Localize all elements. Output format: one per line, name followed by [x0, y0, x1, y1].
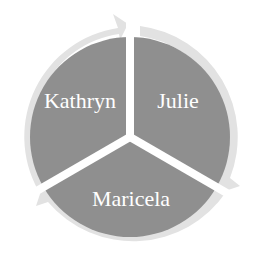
label-maricela: Maricela — [92, 186, 170, 211]
label-kathryn: Kathryn — [44, 88, 116, 113]
label-julie: Julie — [157, 88, 199, 113]
cycle-diagram: Kathryn Julie Maricela — [0, 0, 256, 265]
